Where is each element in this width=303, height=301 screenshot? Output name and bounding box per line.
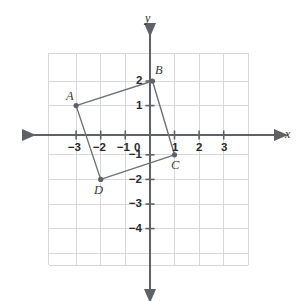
y-tick-label-neg2: −2 [129, 174, 142, 186]
point-d-marker [98, 177, 103, 182]
y-tick-label-neg1: −1 [129, 149, 142, 161]
y-tick-label-neg3: −3 [129, 198, 142, 210]
x-tick-label-neg2: −2 [93, 142, 106, 154]
x-tick-label-pos3: 3 [221, 142, 227, 154]
grid-lines [49, 53, 249, 265]
y-tick-label-neg4: −4 [129, 223, 142, 235]
x-tick-label-neg1: −1 [117, 142, 130, 154]
coordinate-plane-svg [0, 0, 303, 301]
y-tick-label-pos1: 1 [136, 100, 142, 112]
coordinate-plane-figure: −3 −2 −1 0 1 2 3 2 1 −1 −2 −3 −4 x y A B… [0, 0, 303, 301]
x-axis-label: x [285, 128, 290, 140]
y-tick-label-pos2: 2 [136, 75, 142, 87]
vertex-label-a: A [66, 90, 74, 103]
axis-lines [24, 25, 276, 291]
x-tick-label-pos2: 2 [196, 142, 202, 154]
vertex-label-b: B [155, 64, 163, 77]
x-tick-label-neg3: −3 [68, 142, 81, 154]
x-tick-label-pos1: 1 [172, 142, 178, 154]
y-axis-label: y [145, 12, 150, 24]
vertex-label-d: D [94, 184, 103, 197]
point-a-marker [74, 103, 79, 108]
point-b-marker [150, 78, 155, 83]
vertex-label-c: C [171, 159, 179, 172]
